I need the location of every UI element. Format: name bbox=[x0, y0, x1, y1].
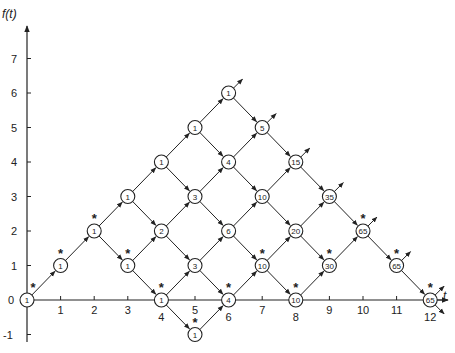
lattice-node: 4* bbox=[222, 280, 236, 307]
edge-arrow bbox=[233, 271, 256, 295]
edge-arrow bbox=[166, 167, 189, 191]
edge-arrow bbox=[133, 168, 156, 192]
star-marker: * bbox=[260, 246, 266, 261]
star-marker: * bbox=[360, 211, 366, 226]
y-tick-label: 3 bbox=[11, 191, 17, 203]
lattice-node: 30* bbox=[322, 246, 336, 273]
node-value: 20 bbox=[291, 227, 300, 236]
star-marker: * bbox=[327, 246, 333, 261]
star-marker: * bbox=[394, 246, 400, 261]
lattice-node: 1 bbox=[222, 86, 236, 100]
node-value: 65 bbox=[359, 227, 368, 236]
node-value: 1 bbox=[193, 331, 198, 340]
edge-arrow bbox=[267, 237, 290, 261]
node-value: 6 bbox=[226, 227, 231, 236]
lattice-node: 10* bbox=[289, 280, 303, 307]
star-marker: * bbox=[293, 280, 299, 295]
outgoing-arrow bbox=[334, 183, 343, 192]
lattice-node: 65* bbox=[390, 246, 404, 273]
x-tick-label: 8 bbox=[293, 311, 299, 323]
edge-arrow bbox=[133, 237, 156, 261]
y-tick-label: 1 bbox=[11, 260, 17, 272]
edge-arrow bbox=[401, 271, 424, 295]
y-axis-label: f(t) bbox=[2, 7, 17, 21]
node-value: 2 bbox=[159, 227, 164, 236]
edge-arrow bbox=[166, 133, 189, 157]
x-tick-label: 4 bbox=[158, 311, 164, 323]
star-marker: * bbox=[30, 280, 36, 295]
x-tick-label: 9 bbox=[326, 304, 332, 316]
node-value: 65 bbox=[426, 296, 435, 305]
y-tick-label: 5 bbox=[11, 122, 17, 134]
node-value: 1 bbox=[126, 262, 131, 271]
x-tick-label: 6 bbox=[226, 311, 232, 323]
edge-arrow bbox=[133, 271, 156, 295]
x-tick-label: 3 bbox=[125, 304, 131, 316]
edge-arrow bbox=[301, 271, 324, 295]
edges bbox=[32, 79, 447, 329]
outgoing-arrow bbox=[435, 305, 444, 314]
node-value: 3 bbox=[193, 262, 198, 271]
edge-arrow bbox=[301, 202, 324, 226]
lattice-node: 5 bbox=[255, 121, 269, 135]
y-tick-label: 6 bbox=[11, 87, 17, 99]
edge-arrow bbox=[267, 168, 290, 192]
x-tick-label: 11 bbox=[391, 304, 402, 316]
star-marker: * bbox=[226, 280, 232, 295]
lattice-node: 65* bbox=[356, 211, 370, 238]
star-marker: * bbox=[192, 315, 198, 330]
lattice-node: 4 bbox=[222, 155, 236, 169]
edge-arrow bbox=[200, 306, 223, 330]
node-value: 5 bbox=[260, 124, 265, 133]
edge-arrow bbox=[166, 271, 189, 295]
node-value: 4 bbox=[226, 158, 231, 167]
lattice-node: 10 bbox=[255, 190, 269, 204]
lattice-node: 1* bbox=[87, 211, 101, 238]
edge-arrow bbox=[334, 202, 357, 226]
node-value: 1 bbox=[92, 227, 97, 236]
edge-arrow bbox=[233, 133, 256, 157]
y-tick-label: 4 bbox=[11, 156, 17, 168]
lattice-node: 1* bbox=[121, 246, 135, 273]
edge-arrow bbox=[233, 236, 256, 260]
y-tick-label: -1 bbox=[3, 329, 13, 341]
lattice-node: 15 bbox=[289, 155, 303, 169]
node-value: 1 bbox=[159, 158, 164, 167]
x-tick-label: 10 bbox=[357, 304, 369, 316]
edge-arrow bbox=[200, 271, 223, 295]
lattice-node: 1* bbox=[188, 315, 202, 342]
edge-arrow bbox=[233, 98, 256, 122]
edge-arrow bbox=[233, 202, 256, 226]
nodes: 1*1*1*11*121*1331*1464*51010*152010*3530… bbox=[20, 86, 437, 342]
node-value: 65 bbox=[392, 262, 401, 271]
edge-arrow bbox=[233, 167, 256, 191]
outgoing-arrow bbox=[402, 252, 411, 261]
y-tick-label: 0 bbox=[8, 294, 14, 306]
lattice-node: 1 bbox=[188, 121, 202, 135]
lattice-diagram: 76543210-1123456789101112 1*1*1*11*121*1… bbox=[0, 0, 455, 353]
edge-arrow bbox=[99, 236, 122, 260]
lattice-node: 35 bbox=[322, 190, 336, 204]
y-tick-label: 7 bbox=[11, 53, 17, 65]
edge-arrow bbox=[267, 133, 290, 157]
outgoing-arrow bbox=[301, 148, 310, 157]
edge-arrow bbox=[200, 237, 223, 261]
lattice-node: 1* bbox=[154, 280, 168, 307]
node-value: 1 bbox=[193, 124, 198, 133]
lattice-node: 1* bbox=[20, 280, 36, 307]
node-value: 10 bbox=[258, 193, 267, 202]
lattice-node: 10* bbox=[255, 246, 269, 273]
edge-arrow bbox=[166, 202, 189, 226]
x-axis-label: t bbox=[443, 289, 447, 303]
star-marker: * bbox=[58, 246, 64, 261]
lattice-node: 1 bbox=[154, 155, 168, 169]
edge-arrow bbox=[267, 271, 290, 295]
x-tick-label: 1 bbox=[58, 304, 64, 316]
edge-arrow bbox=[267, 202, 290, 226]
lattice-node: 6 bbox=[222, 224, 236, 238]
edge-arrow bbox=[200, 168, 223, 192]
lattice-plot: 76543210-1123456789101112 1*1*1*11*121*1… bbox=[0, 0, 455, 353]
star-marker: * bbox=[125, 246, 131, 261]
node-value: 10 bbox=[258, 262, 267, 271]
y-tick-label: 2 bbox=[11, 225, 17, 237]
